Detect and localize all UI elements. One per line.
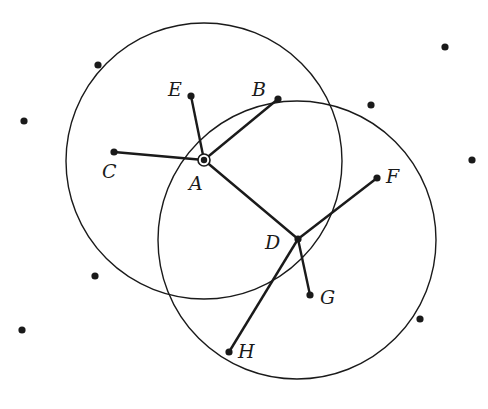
label-H: H	[238, 342, 255, 361]
edge-AD	[204, 160, 298, 239]
point-B	[274, 95, 281, 102]
unlabeled-point-3	[441, 43, 448, 50]
point-C	[110, 148, 117, 155]
label-D: D	[265, 233, 280, 252]
edge-AC	[114, 152, 204, 160]
edge-DF	[298, 178, 377, 239]
point-E	[187, 92, 194, 99]
unlabeled-point-4	[468, 156, 475, 163]
edge-DH	[229, 239, 298, 352]
point-F	[373, 174, 380, 181]
unlabeled-point-7	[416, 315, 423, 322]
edge-AE	[191, 96, 204, 160]
unlabeled-point-5	[91, 272, 98, 279]
point-A	[201, 157, 207, 163]
label-G: G	[320, 288, 335, 307]
label-A: A	[189, 174, 203, 193]
point-G	[306, 291, 313, 298]
unlabeled-point-2	[367, 101, 374, 108]
label-C: C	[102, 162, 117, 181]
unlabeled-point-1	[20, 117, 27, 124]
label-E: E	[168, 80, 182, 99]
unlabeled-point-6	[18, 326, 25, 333]
label-B: B	[252, 80, 266, 99]
point-D	[294, 235, 301, 242]
edge-DG	[298, 239, 310, 295]
diagram-canvas: ABCDEFGH	[0, 0, 488, 409]
label-F: F	[386, 167, 399, 186]
unlabeled-point-0	[94, 61, 101, 68]
point-H	[225, 348, 232, 355]
edge-AB	[204, 99, 278, 160]
